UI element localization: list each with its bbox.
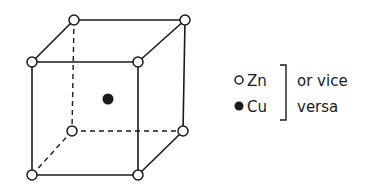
zn-atom-back-top-left [69, 15, 79, 25]
cu-atom-center [103, 94, 114, 105]
hidden-edge-bottom-left-depth [32, 131, 72, 175]
zn-atom-front-top-right [133, 57, 143, 67]
edge-bottom-right-depth [138, 131, 183, 175]
legend-note-line2: versa [297, 98, 338, 116]
legend-label-zn: Zn [247, 72, 267, 90]
edge-back-right [183, 20, 185, 131]
edge-top-right-depth [138, 20, 185, 62]
legend-open-circle-icon [235, 76, 243, 84]
zn-atom-front-top-left [27, 57, 37, 67]
legend-label-cu: Cu [247, 98, 267, 116]
hidden-edge-back-left [72, 20, 74, 131]
unit-cell-diagram: Zn Cu or vice versa [0, 0, 389, 190]
legend-note-line1: or vice [297, 72, 348, 90]
legend-filled-circle-icon [235, 102, 244, 111]
legend-bracket [280, 65, 286, 120]
zn-atom-front-bottom-left [27, 170, 37, 180]
zn-atom-back-top-right [180, 15, 190, 25]
legend: Zn Cu or vice versa [235, 65, 348, 120]
zn-atom-back-bottom-left [67, 126, 77, 136]
edge-top-left-depth [32, 20, 74, 62]
zn-atom-back-bottom-right [178, 126, 188, 136]
zn-atom-front-bottom-right [133, 170, 143, 180]
